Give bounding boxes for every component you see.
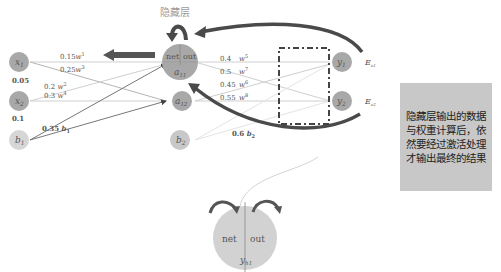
output-node-y2: y2 [332, 91, 352, 111]
error-label-o1: Eo1 [364, 58, 376, 68]
svg-text:0.25w3: 0.25w3 [60, 64, 85, 74]
svg-text:0.35 b1: 0.35 b1 [42, 124, 70, 134]
bias2-weight-label: 0.6 b2 [232, 129, 256, 139]
explanation-text: 隐藏层输出的数据与权重计算后，依然要经过激活处理才输出最终的结果 [406, 109, 486, 165]
input-node-x1: x1 [9, 52, 29, 72]
error-feedback-top-arrowhead-icon [194, 26, 206, 38]
self-loop-arrowhead-icon [166, 33, 178, 42]
backprop-arrow-icon [103, 49, 155, 61]
bias-node-b1: b1 [9, 130, 29, 150]
svg-text:out: out [183, 52, 197, 61]
weight-labels-layer2: 0.4 w5 0.5 w7 0.45 w6 0.55 w8 [220, 53, 248, 102]
svg-text:0.5: 0.5 [220, 68, 231, 76]
svg-text:0.45: 0.45 [220, 81, 236, 89]
svg-text:w6: w6 [239, 79, 248, 89]
svg-text:0.3 w4: 0.3 w4 [44, 90, 67, 100]
bias-node-b2: b2 [170, 130, 190, 150]
svg-text:0.15w1: 0.15w1 [60, 51, 85, 61]
detail-neuron-h1: net out yh1 [213, 202, 277, 272]
svg-text:net: net [222, 234, 237, 244]
out-arrowhead-icon [274, 206, 282, 214]
error-label-o2: Eo2 [364, 97, 376, 107]
svg-text:0.4: 0.4 [220, 55, 232, 63]
svg-text:net: net [166, 52, 180, 61]
explanation-note: 隐藏层输出的数据与权重计算后，依然要经过激活处理才输出最终的结果 [400, 83, 492, 191]
svg-text:w7: w7 [239, 66, 248, 76]
hidden-node-a11: net out a11 [162, 44, 198, 80]
x2-value: 0.1 [12, 114, 24, 123]
output-node-y1: y1 [332, 52, 352, 72]
svg-text:0.55: 0.55 [220, 94, 236, 102]
hidden-node-a12: a12 [172, 91, 192, 111]
x1-value: 0.05 [12, 76, 29, 85]
output-highlight-box [279, 48, 329, 124]
input-node-x2: x2 [9, 91, 29, 111]
svg-text:out: out [250, 234, 265, 244]
